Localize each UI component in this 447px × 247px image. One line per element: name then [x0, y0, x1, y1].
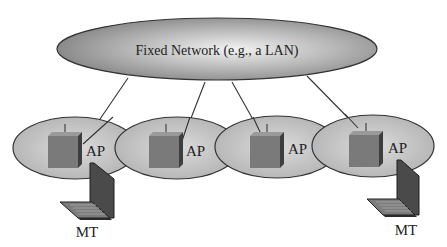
mt-label-1: MT	[76, 224, 99, 240]
fixed-network: Fixed Network (e.g., a LAN)	[57, 18, 377, 80]
ap-label-1: AP	[86, 143, 105, 159]
ap-label-3: AP	[288, 141, 307, 157]
ap-label-2: AP	[186, 143, 205, 159]
fixed-network-label: Fixed Network (e.g., a LAN)	[136, 43, 299, 59]
mt-label-2: MT	[395, 222, 418, 238]
ap-label-4: AP	[388, 140, 407, 156]
network-diagram: Fixed Network (e.g., a LAN) AP AP	[0, 0, 447, 247]
